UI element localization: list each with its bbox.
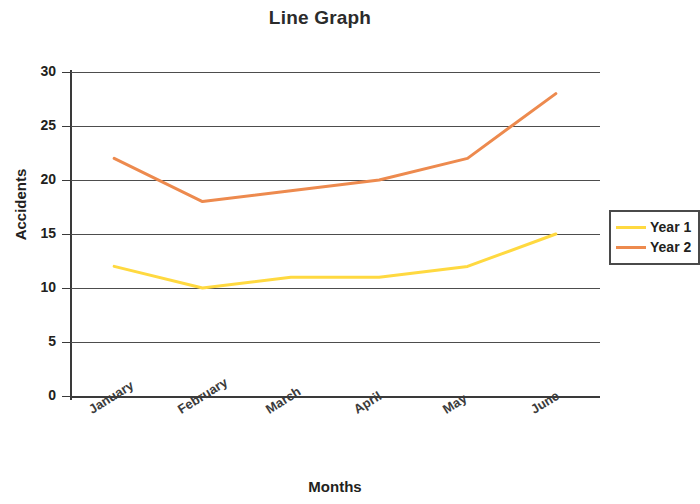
y-tick-mark-10 bbox=[62, 288, 71, 289]
y-tick-mark-5 bbox=[62, 342, 71, 343]
chart-legend: Year 1Year 2 bbox=[609, 210, 700, 265]
y-tick-mark-20 bbox=[62, 180, 71, 181]
y-axis-title: Accidents bbox=[12, 135, 29, 275]
y-tick-label-25: 25 bbox=[20, 117, 56, 133]
y-tick-label-30: 30 bbox=[20, 63, 56, 79]
y-tick-mark-30 bbox=[62, 72, 71, 73]
legend-label: Year 2 bbox=[650, 239, 691, 255]
x-axis-title: Months bbox=[70, 478, 600, 495]
gridline-0 bbox=[70, 396, 600, 398]
series-container bbox=[70, 72, 600, 396]
y-tick-mark-0 bbox=[62, 396, 71, 397]
chart-title: Line Graph bbox=[0, 7, 640, 29]
y-tick-label-0: 0 bbox=[20, 387, 56, 403]
legend-swatch-icon bbox=[616, 226, 646, 229]
legend-label: Year 1 bbox=[650, 219, 691, 235]
series-line-year-1 bbox=[114, 234, 556, 288]
legend-item-year-2[interactable]: Year 2 bbox=[616, 237, 691, 257]
legend-item-year-1[interactable]: Year 1 bbox=[616, 217, 691, 237]
y-tick-label-10: 10 bbox=[20, 279, 56, 295]
y-tick-mark-15 bbox=[62, 234, 71, 235]
y-tick-mark-25 bbox=[62, 126, 71, 127]
legend-swatch-icon bbox=[616, 246, 646, 249]
y-tick-label-5: 5 bbox=[20, 333, 56, 349]
series-line-year-2 bbox=[114, 94, 556, 202]
